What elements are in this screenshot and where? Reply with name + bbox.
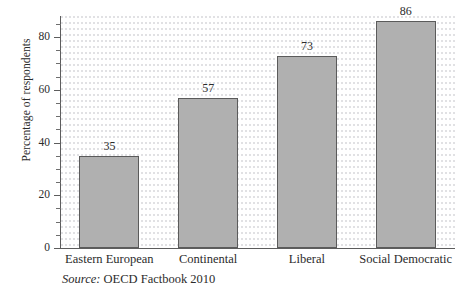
y-tick-label: 20: [18, 189, 50, 201]
y-tick-minor: [56, 103, 61, 104]
y-tick-minor: [56, 63, 61, 64]
bar: [178, 98, 238, 248]
y-tick-major: [54, 248, 61, 249]
y-tick-minor: [56, 77, 61, 78]
y-tick-minor: [56, 222, 61, 223]
y-tick-major: [54, 143, 61, 144]
y-tick-label: 40: [18, 137, 50, 149]
bar-value-label: 57: [168, 82, 248, 94]
y-tick-minor: [56, 182, 61, 183]
y-tick-minor: [56, 129, 61, 130]
bar: [277, 56, 337, 248]
y-tick-label: 80: [18, 31, 50, 43]
bar: [376, 21, 436, 248]
y-tick-minor: [56, 50, 61, 51]
category-label: Social Democratic: [336, 252, 465, 266]
source-text: OECD Factbook 2010: [104, 272, 216, 286]
y-tick-minor: [56, 156, 61, 157]
bar-value-label: 35: [69, 140, 149, 152]
y-tick-major: [54, 90, 61, 91]
y-tick-minor: [56, 24, 61, 25]
y-tick-label: 60: [18, 84, 50, 96]
y-tick-major: [54, 37, 61, 38]
y-tick-minor: [56, 116, 61, 117]
bar-value-label: 86: [366, 5, 446, 17]
source-label: Source:: [62, 272, 100, 286]
source-note: Source: OECD Factbook 2010: [62, 272, 215, 286]
y-tick-minor: [56, 169, 61, 170]
bar-chart-figure: Percentage of respondents 020406080 3557…: [0, 0, 465, 298]
bar-value-label: 73: [267, 40, 347, 52]
y-tick-major: [54, 195, 61, 196]
x-axis-line: [60, 248, 455, 249]
y-tick-minor: [56, 208, 61, 209]
bar: [79, 156, 139, 248]
y-tick-minor: [56, 235, 61, 236]
